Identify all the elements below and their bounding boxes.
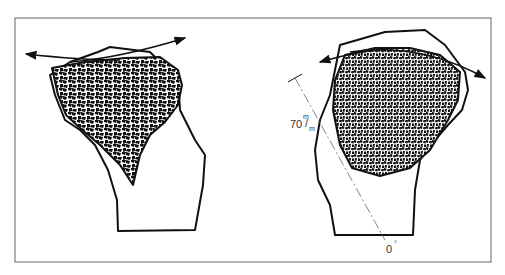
right-cancellous-core bbox=[333, 48, 460, 176]
right-panel: 70 m / m 0 ° bbox=[288, 30, 485, 255]
left-panel bbox=[26, 38, 205, 231]
figure-canvas: 70 m / m 0 ° bbox=[0, 0, 505, 275]
angle-unit: ° bbox=[394, 240, 397, 247]
distance-value: 70 bbox=[290, 118, 302, 130]
dimension-tick bbox=[288, 74, 302, 82]
distance-unit-bottom: m bbox=[309, 125, 315, 132]
angle-label: 0 bbox=[386, 243, 392, 255]
